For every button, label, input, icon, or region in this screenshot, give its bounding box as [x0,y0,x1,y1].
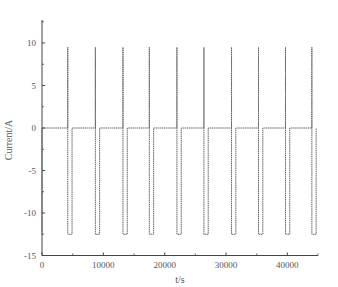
y-tick-label: -10 [24,208,36,218]
current-series [42,47,316,234]
x-tick-label: 30000 [215,260,238,270]
current-line [42,47,316,234]
x-tick-label: 10000 [92,260,115,270]
y-tick-label: 0 [32,123,37,133]
x-axis-title: t/s [175,274,185,285]
x-tick-label: 40000 [276,260,299,270]
y-tick-label: 10 [27,38,37,48]
y-tick-label: -5 [29,166,37,176]
y-axis-title: Current/A [3,119,14,160]
x-tick-label: 20000 [153,260,176,270]
y-tick-label: -15 [24,251,36,261]
x-tick-label: 0 [40,260,45,270]
current-time-chart: 1050-5-10-15010000200003000040000 t/s Cu… [0,0,338,287]
y-tick-label: 5 [32,81,37,91]
